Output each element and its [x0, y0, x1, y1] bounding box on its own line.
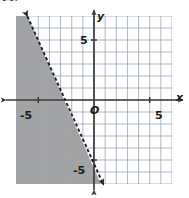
- y-axis-label: y: [97, 11, 104, 22]
- y-tick-label-5: 5: [80, 35, 88, 46]
- x-tick-label-minus5: -5: [20, 110, 32, 121]
- x-axis-label: x: [176, 92, 183, 103]
- figure-container: 21.: [0, 0, 189, 198]
- x-tick-label-5: 5: [155, 110, 163, 121]
- coordinate-plane: [0, 0, 189, 198]
- y-tick-label-minus5: -5: [73, 165, 85, 176]
- origin-label: O: [90, 105, 99, 116]
